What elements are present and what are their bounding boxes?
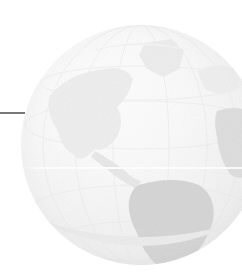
leader-rule <box>0 112 25 114</box>
graphic-canvas <box>0 0 242 277</box>
globe-icon <box>21 25 242 265</box>
